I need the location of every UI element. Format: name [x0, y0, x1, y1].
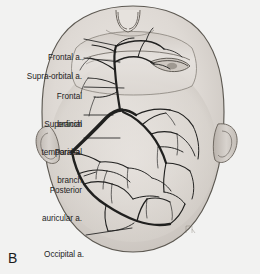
label-posterior-auricular-a: Posterior auricular a.	[6, 167, 82, 233]
panel-letter-b: B	[8, 250, 17, 266]
label-occipital-a: Occipital a.	[18, 231, 84, 269]
